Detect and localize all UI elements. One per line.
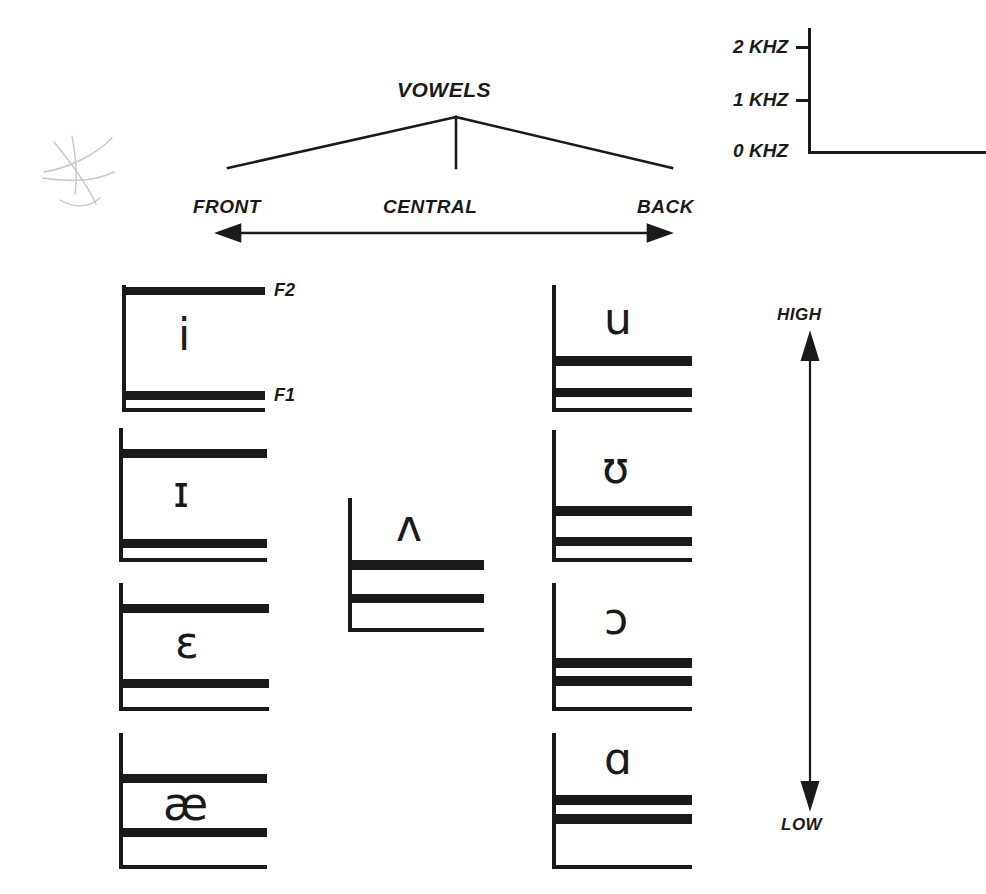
vowel-symbol: ɛ	[175, 621, 199, 665]
f2-bar	[554, 795, 692, 805]
formant-panel-epsilon: ɛ	[119, 583, 269, 711]
panel-axis-baseline	[122, 408, 265, 412]
vowel-formant-figure: VOWELS FRONT CENTRAL BACK 2 KHZ 1 KHZ 0 …	[0, 0, 986, 894]
khz-tick-1	[796, 99, 810, 102]
height-label-high: HIGH	[777, 305, 822, 325]
vowel-symbol: u	[604, 297, 632, 341]
f2-label: F2	[274, 280, 295, 301]
khz-label-0: 0 KHZ	[688, 140, 788, 162]
vowel-symbol: ɪ	[173, 470, 189, 514]
panel-axis-vertical	[119, 583, 123, 711]
panel-axis-baseline	[552, 558, 692, 562]
f1-bar	[554, 388, 692, 397]
f2-bar	[554, 356, 692, 366]
vowel-symbol: ɑ	[604, 737, 632, 781]
panel-axis-baseline	[119, 558, 267, 562]
panel-axis-baseline	[119, 707, 269, 711]
formant-panel-ash: æ	[119, 733, 267, 869]
panel-axis-vertical	[119, 733, 123, 869]
panel-axis-baseline	[552, 408, 692, 412]
f2-bar	[554, 506, 692, 516]
formant-panel-small-capital-i: ɪ	[119, 428, 267, 562]
tree-branch-front	[228, 117, 456, 168]
f2-bar	[350, 560, 484, 570]
vowel-symbol: ʊ	[602, 446, 629, 490]
axis-label-back: BACK	[637, 196, 694, 218]
front-back-arrow	[200, 218, 690, 250]
panel-axis-vertical	[552, 583, 556, 711]
vowel-symbol: æ	[163, 781, 208, 827]
panel-axis-baseline	[552, 707, 692, 711]
f1-bar	[124, 391, 265, 400]
vowel-symbol: i	[178, 313, 190, 357]
f1-bar	[121, 539, 267, 548]
f2-bar	[121, 449, 267, 458]
khz-tick-2	[796, 46, 810, 49]
khz-label-1: 1 KHZ	[688, 89, 788, 111]
formant-panel-open-o: ɔ	[552, 583, 692, 711]
panel-axis-baseline	[119, 865, 267, 869]
f1-bar	[350, 594, 484, 603]
f2-bar	[554, 658, 692, 668]
tree-branch-back	[456, 117, 672, 168]
f1-bar	[554, 537, 692, 546]
f1-bar	[554, 814, 692, 824]
f2-bar	[121, 604, 269, 613]
f2-bar	[124, 287, 265, 295]
panel-axis-baseline	[348, 628, 484, 632]
high-low-arrow	[786, 330, 836, 812]
formant-panel-u: u	[552, 285, 692, 412]
f1-bar	[121, 679, 269, 688]
formant-panel-caret: ʌ	[348, 498, 484, 632]
axis-label-front: FRONT	[193, 196, 261, 218]
axis-label-central: CENTRAL	[383, 196, 477, 218]
formant-panel-i: i F2 F1	[122, 285, 265, 412]
vowel-symbol: ɔ	[604, 597, 628, 641]
khz-scale-legend: 2 KHZ 1 KHZ 0 KHZ	[660, 28, 986, 168]
khz-label-2: 2 KHZ	[688, 36, 788, 58]
f1-label: F1	[274, 385, 295, 406]
height-label-low: LOW	[781, 815, 822, 835]
panel-axis-baseline	[552, 865, 692, 869]
vowel-symbol: ʌ	[396, 504, 422, 548]
f1-bar	[554, 676, 692, 686]
formant-panel-upsilon: ʊ	[552, 430, 692, 562]
khz-axis-baseline	[808, 151, 986, 154]
formant-panel-script-a: ɑ	[552, 733, 692, 869]
